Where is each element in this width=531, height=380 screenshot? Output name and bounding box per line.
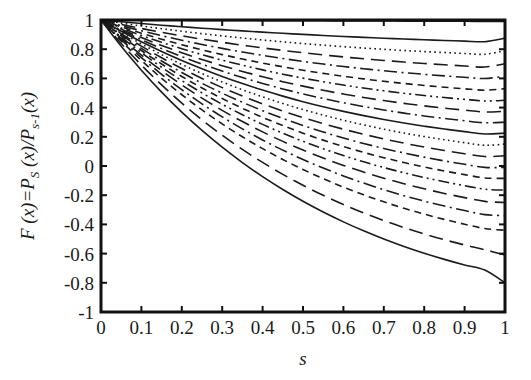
x-tick-label-3: 0.3 — [210, 317, 234, 338]
y-tick-label-2: -0.6 — [64, 244, 94, 265]
y-tick-label-3: -0.4 — [64, 214, 95, 235]
y-tick-label-10: 1 — [85, 10, 95, 31]
y-axis-title-x2: (x)/ — [17, 139, 39, 172]
y-tick-label-7: 0.4 — [70, 98, 94, 119]
x-tick-label-6: 0.6 — [332, 317, 356, 338]
x-axis-title: s — [299, 348, 306, 369]
y-axis-title-P2-sub: s-1 — [27, 113, 42, 129]
figure-container: 00.10.20.30.40.50.60.70.80.91 -1-0.8-0.6… — [0, 0, 531, 380]
x-tick-label-0: 0 — [96, 317, 106, 338]
y-axis-title-F: F — [17, 228, 38, 241]
y-axis-title-P2: P — [17, 129, 38, 142]
x-tick-label-9: 0.9 — [453, 317, 477, 338]
y-tick-label-6: 0.2 — [70, 127, 94, 148]
x-tick-label-7: 0.7 — [372, 317, 396, 338]
x-tick-label-8: 0.8 — [412, 317, 436, 338]
x-tick-label-5: 0.5 — [291, 317, 315, 338]
x-tick-label-10: 1 — [500, 317, 510, 338]
y-axis-title-P1: P — [17, 178, 38, 191]
x-tick-label-2: 0.2 — [170, 317, 194, 338]
y-tick-label-5: 0 — [85, 156, 95, 177]
x-tick-label-1: 0.1 — [130, 317, 154, 338]
line-chart: 00.10.20.30.40.50.60.70.80.91 -1-0.8-0.6… — [0, 0, 531, 380]
x-tick-label-4: 0.4 — [251, 317, 275, 338]
y-axis-title-x1: (x)= — [17, 190, 39, 229]
y-tick-label-4: -0.2 — [64, 185, 94, 206]
y-tick-label-8: 0.6 — [70, 68, 94, 89]
y-axis-title-x3: (x) — [17, 92, 39, 113]
y-tick-label-1: -0.8 — [64, 273, 94, 294]
y-tick-label-9: 0.8 — [70, 39, 94, 60]
y-tick-label-0: -1 — [78, 302, 94, 323]
